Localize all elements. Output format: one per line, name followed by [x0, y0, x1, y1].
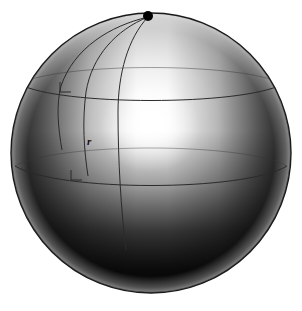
- pole-point: [143, 11, 153, 21]
- sphere-body: [11, 13, 291, 293]
- sphere-illustration: r: [0, 0, 302, 311]
- sphere-figure: r: [0, 0, 302, 311]
- sphere-specular-highlight: [100, 84, 200, 172]
- radius-label-r: r: [87, 135, 92, 147]
